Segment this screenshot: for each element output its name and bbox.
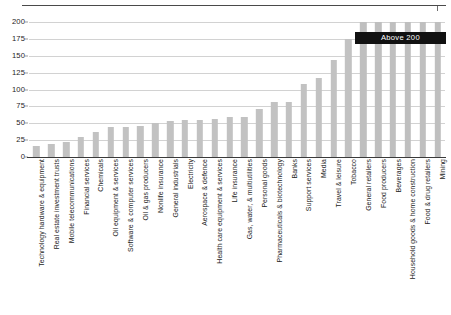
category-label: Banks bbox=[292, 159, 299, 178]
category-label: General retailers bbox=[366, 159, 373, 211]
category-label: Tobacco bbox=[351, 159, 358, 185]
category-label: Media bbox=[321, 159, 328, 178]
bar-slot bbox=[103, 22, 118, 157]
category-label: Oil & gas producers bbox=[143, 159, 150, 220]
category-label: Financial services bbox=[84, 159, 91, 215]
bar bbox=[316, 78, 322, 157]
category-label: Beverages bbox=[396, 159, 403, 192]
y-axis-tick-mark bbox=[25, 72, 28, 73]
bar-slot bbox=[222, 22, 237, 157]
bar-slot bbox=[29, 22, 44, 157]
bar bbox=[212, 119, 218, 157]
bar bbox=[48, 144, 54, 157]
category-label: Oil equipment & services bbox=[113, 159, 120, 236]
y-axis-tick-mark bbox=[25, 38, 28, 39]
category-label: Life insurance bbox=[232, 159, 239, 203]
bar bbox=[78, 137, 84, 157]
bar-slot bbox=[88, 22, 103, 157]
category-label: Electricity bbox=[188, 159, 195, 189]
bar bbox=[197, 120, 203, 157]
category-label: Mining bbox=[440, 159, 447, 180]
bar bbox=[256, 109, 262, 157]
chart-page: 0255075100125150175200 Above 200 Technol… bbox=[0, 0, 451, 315]
category-label: Household goods & home construction bbox=[410, 159, 417, 279]
category-label: Support services bbox=[306, 159, 313, 211]
x-axis-category-labels: Technology hardware & equipmentReal esta… bbox=[29, 159, 445, 309]
y-axis-tick-label: 50 bbox=[16, 119, 25, 127]
category-label: Nonlife insurance bbox=[158, 159, 165, 213]
bar bbox=[63, 142, 69, 157]
bar-slot bbox=[341, 22, 356, 157]
bar-slot bbox=[59, 22, 74, 157]
category-label: Personal goods bbox=[262, 159, 269, 208]
plot-area: 0255075100125150175200 Above 200 bbox=[29, 22, 445, 157]
category-label: Aerospace & defence bbox=[202, 159, 209, 226]
category-label: Health care equipment & services bbox=[217, 159, 224, 264]
bar-slot bbox=[311, 22, 326, 157]
category-label: Food & drug retailers bbox=[425, 159, 432, 224]
category-label: Technology hardware & equipment bbox=[39, 159, 46, 267]
bar bbox=[226, 117, 232, 158]
bar bbox=[301, 84, 307, 157]
bar bbox=[152, 123, 158, 157]
bar-slot bbox=[44, 22, 59, 157]
page-top-rule bbox=[22, 5, 446, 6]
bar bbox=[167, 121, 173, 157]
bar-slot bbox=[148, 22, 163, 157]
bar-slot bbox=[74, 22, 89, 157]
y-axis-tick-mark bbox=[25, 106, 28, 107]
category-label: Real estate investment trusts bbox=[54, 159, 61, 249]
category-label: Pharmaceuticals & biotechnology bbox=[277, 159, 284, 262]
y-axis-tick-mark bbox=[25, 123, 28, 124]
bar bbox=[108, 127, 114, 157]
y-axis-tick-mark bbox=[25, 55, 28, 56]
bar-slot bbox=[207, 22, 222, 157]
y-axis-tick-mark bbox=[25, 89, 28, 90]
bar-slot bbox=[237, 22, 252, 157]
bar-slot bbox=[118, 22, 133, 157]
y-axis-tick-label: 25 bbox=[16, 136, 25, 144]
bar bbox=[137, 126, 143, 157]
top-rule-tick bbox=[437, 6, 438, 11]
y-axis-tick-label: 125 bbox=[12, 69, 25, 77]
bar-slot bbox=[252, 22, 267, 157]
category-label: Mobile telecommunications bbox=[69, 159, 76, 243]
category-label: Gas, water, & multiutilities bbox=[247, 159, 254, 239]
y-axis-tick-label: 150 bbox=[12, 52, 25, 60]
bar-slot bbox=[163, 22, 178, 157]
category-label: General industrials bbox=[173, 159, 180, 217]
y-axis-tick-mark bbox=[25, 22, 28, 23]
bar-slot bbox=[192, 22, 207, 157]
category-label: Food producers bbox=[381, 159, 388, 208]
category-label: Travel & leisure bbox=[336, 159, 343, 207]
category-label: Software & computer services bbox=[128, 159, 135, 252]
y-axis-tick-label: 75 bbox=[16, 103, 25, 111]
bar bbox=[286, 102, 292, 157]
bar-slot bbox=[267, 22, 282, 157]
bar bbox=[345, 39, 351, 157]
bar bbox=[33, 146, 39, 157]
y-axis-tick-label: 200 bbox=[12, 18, 25, 26]
bar-slot bbox=[296, 22, 311, 157]
bar bbox=[271, 102, 277, 157]
bar bbox=[93, 132, 99, 157]
above-200-annotation: Above 200 bbox=[355, 32, 446, 44]
bar bbox=[241, 117, 247, 158]
bar-slot bbox=[326, 22, 341, 157]
y-axis-tick-label: 100 bbox=[12, 86, 25, 94]
y-axis-tick-label: 175 bbox=[12, 35, 25, 43]
bar bbox=[182, 120, 188, 157]
bar bbox=[330, 60, 336, 157]
bar-slot bbox=[282, 22, 297, 157]
bar bbox=[122, 127, 128, 157]
y-axis-tick-mark bbox=[25, 140, 28, 141]
bar-slot bbox=[133, 22, 148, 157]
bar-slot bbox=[178, 22, 193, 157]
category-label: Chemicals bbox=[98, 159, 105, 192]
